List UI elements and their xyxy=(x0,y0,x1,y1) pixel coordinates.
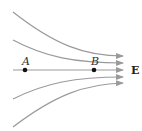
field-line-1 xyxy=(13,12,123,56)
diagram-svg: AB E xyxy=(0,0,142,131)
field-lines xyxy=(13,12,123,127)
field-line-5 xyxy=(13,83,123,127)
field-line-diagram: AB E xyxy=(0,0,142,131)
field-line-4 xyxy=(13,77,123,99)
point-b xyxy=(92,68,97,73)
point-label-b: B xyxy=(90,55,99,68)
field-label-e: E xyxy=(131,64,139,77)
point-a xyxy=(23,68,28,73)
point-label-a: A xyxy=(21,55,30,68)
